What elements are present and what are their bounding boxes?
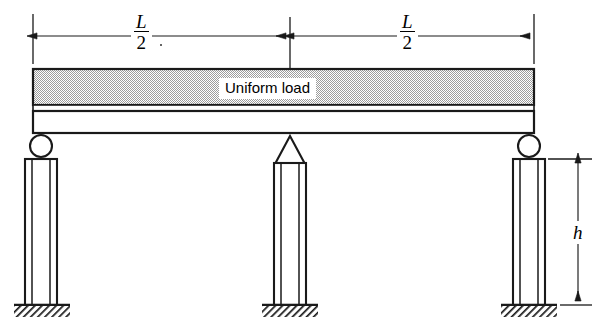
- diagram-svg: [0, 0, 601, 334]
- column-center: [274, 163, 306, 305]
- span-right-label: L 2: [397, 13, 418, 52]
- stray-dot-mark: [160, 44, 162, 46]
- figure-canvas: L 2 L 2 Uniform load h: [0, 0, 601, 334]
- height-label: h: [570, 221, 586, 244]
- span-left-denominator: 2: [134, 32, 149, 52]
- span-right-numerator: L: [400, 13, 415, 32]
- column-right: [513, 159, 545, 305]
- span-left-label: L 2: [131, 13, 152, 52]
- span-left-numerator: L: [134, 13, 149, 32]
- support-left-roller: [30, 135, 52, 157]
- support-right-roller: [518, 135, 540, 157]
- span-right-denominator: 2: [400, 32, 415, 52]
- column-left: [25, 159, 57, 305]
- beam-web-band: [33, 111, 534, 133]
- foundation-center: [262, 305, 318, 317]
- foundation-right: [501, 305, 557, 317]
- foundation-left: [14, 305, 70, 317]
- dimension-extension-lines: [33, 14, 534, 68]
- uniform-load-caption: Uniform load: [219, 78, 316, 99]
- support-center-pin: [275, 136, 305, 164]
